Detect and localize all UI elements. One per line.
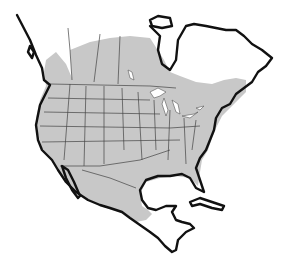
north-america-range-map	[0, 0, 288, 261]
arctic-island	[150, 16, 172, 28]
cuba	[190, 198, 224, 210]
